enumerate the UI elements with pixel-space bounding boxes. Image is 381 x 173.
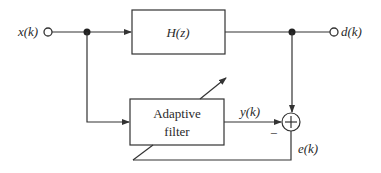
output-label: y(k) bbox=[238, 104, 260, 119]
adaptation-arrow-top bbox=[200, 78, 226, 99]
minus-sign: − bbox=[270, 126, 277, 141]
input-terminal bbox=[44, 28, 52, 36]
plant-label: H(z) bbox=[165, 25, 189, 40]
input-label: x(k) bbox=[17, 24, 38, 39]
error-label: e(k) bbox=[298, 141, 318, 156]
desired-terminal bbox=[330, 28, 338, 36]
input-to-adaptive-line bbox=[87, 32, 129, 122]
adaptive-filter-label-line1: Adaptive bbox=[153, 106, 201, 121]
desired-label: d(k) bbox=[341, 24, 362, 39]
system-identification-diagram: x(k) H(z) d(k) Adaptive filter y(k) − e(… bbox=[0, 0, 381, 173]
adaptive-filter-label-line2: filter bbox=[164, 124, 190, 139]
adaptation-arrow-bottom bbox=[133, 145, 153, 160]
